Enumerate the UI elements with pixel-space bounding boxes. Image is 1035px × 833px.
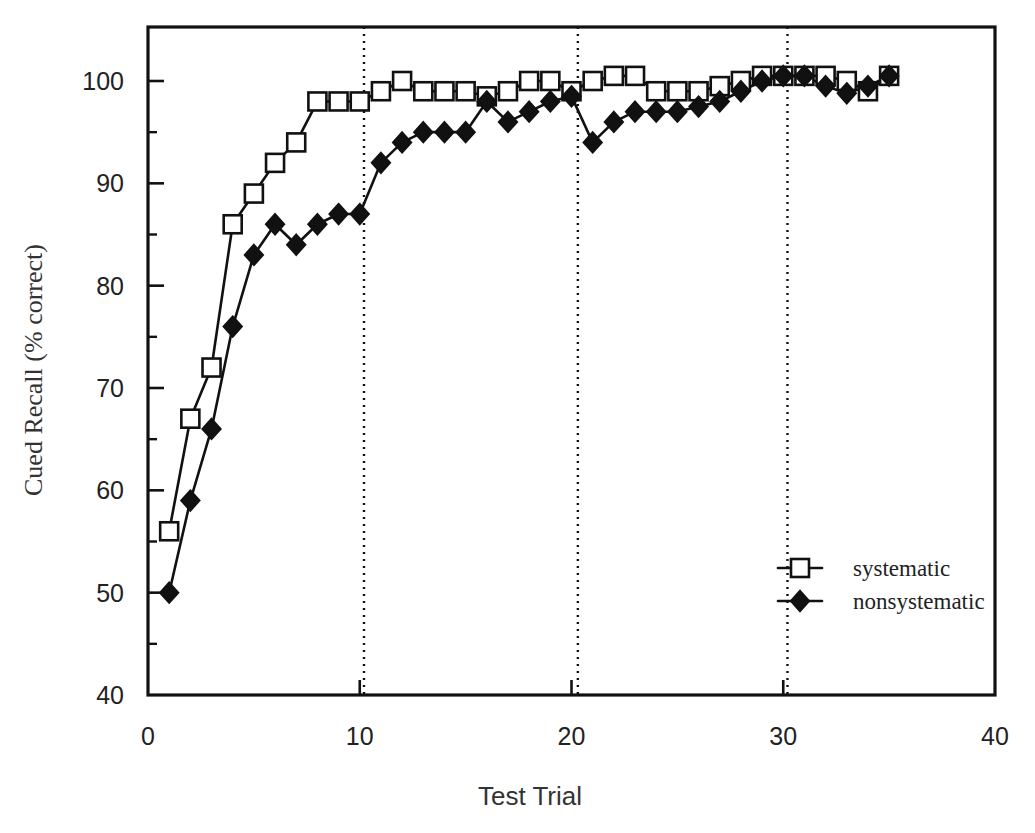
data-point-nonsystematic: [414, 122, 432, 142]
x-tick-label: 0: [141, 722, 155, 750]
data-point-systematic: [414, 82, 432, 100]
data-point-nonsystematic: [647, 102, 665, 122]
y-tick-label: 90: [96, 169, 124, 197]
x-tick-label: 10: [346, 722, 374, 750]
data-point-systematic: [330, 92, 348, 110]
data-point-systematic: [626, 67, 644, 85]
data-point-nonsystematic: [520, 102, 538, 122]
y-axis-title: Cued Recall (% correct): [19, 244, 48, 496]
data-point-systematic: [668, 82, 686, 100]
data-point-systematic: [224, 215, 242, 233]
chart-figure: 405060708090100 010203040 Test Trial Cue…: [0, 0, 1035, 833]
data-point-systematic: [520, 72, 538, 90]
data-point-systematic: [372, 82, 390, 100]
data-point-systematic: [245, 185, 263, 203]
data-point-nonsystematic: [181, 491, 199, 511]
data-point-systematic: [605, 67, 623, 85]
data-point-systematic: [584, 72, 602, 90]
x-axis-title: Test Trial: [478, 781, 582, 811]
series-line-systematic: [169, 76, 889, 531]
data-point-nonsystematic: [351, 204, 369, 224]
legend-label-nonsystematic: nonsystematic: [853, 589, 985, 614]
y-tick-label: 80: [96, 272, 124, 300]
data-point-systematic: [541, 72, 559, 90]
data-point-systematic: [647, 82, 665, 100]
data-point-systematic: [181, 410, 199, 428]
legend-marker-nonsystematic: [791, 591, 809, 611]
data-point-nonsystematic: [626, 102, 644, 122]
y-tick-label: 40: [96, 681, 124, 709]
data-point-systematic: [308, 92, 326, 110]
data-point-systematic: [160, 522, 178, 540]
y-tick-label: 50: [96, 579, 124, 607]
data-point-nonsystematic: [203, 419, 221, 439]
chart-legend: systematicnonsystematic: [778, 556, 985, 614]
data-point-nonsystematic: [435, 122, 453, 142]
line-chart: 405060708090100 010203040 Test Trial Cue…: [0, 0, 1035, 833]
data-point-systematic: [499, 82, 517, 100]
y-tick-label: 70: [96, 374, 124, 402]
data-point-systematic: [457, 82, 475, 100]
data-point-systematic: [435, 82, 453, 100]
legend-marker-systematic: [791, 559, 809, 577]
legend-label-systematic: systematic: [853, 556, 950, 581]
x-axis-ticks: 010203040: [141, 680, 1009, 750]
y-tick-label: 100: [82, 67, 124, 95]
data-point-nonsystematic: [668, 102, 686, 122]
data-point-nonsystematic: [160, 583, 178, 603]
data-point-systematic: [351, 92, 369, 110]
data-point-systematic: [287, 133, 305, 151]
y-tick-label: 60: [96, 476, 124, 504]
data-point-nonsystematic: [541, 91, 559, 111]
data-point-nonsystematic: [330, 204, 348, 224]
data-point-nonsystematic: [224, 317, 242, 337]
y-axis-ticks: 405060708090100: [82, 67, 164, 709]
data-point-systematic: [203, 359, 221, 377]
data-point-systematic: [266, 154, 284, 172]
x-tick-label: 20: [558, 722, 586, 750]
x-tick-label: 30: [769, 722, 797, 750]
data-point-systematic: [393, 72, 411, 90]
x-tick-label: 40: [981, 722, 1009, 750]
